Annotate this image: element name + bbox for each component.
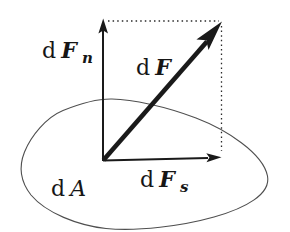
projection-lines (108, 21, 222, 151)
label-shear-force-subscript: s (180, 178, 189, 196)
force-diagram-svg: d F n d F d F s d A (0, 0, 290, 232)
label-shear-force-prefix: d (140, 167, 154, 192)
label-normal-force-symbol: F (60, 37, 78, 63)
label-normal-force: d F n (42, 37, 93, 67)
label-resultant-force: d F (136, 54, 172, 80)
label-surface-area-symbol: A (68, 176, 86, 201)
label-resultant-force-prefix: d (136, 55, 150, 80)
normal-force-arrow (98, 19, 108, 162)
surface-patch-outline (21, 99, 268, 229)
label-resultant-force-symbol: F (154, 54, 172, 80)
label-shear-force: d F s (140, 166, 189, 196)
label-surface-area: d A (51, 176, 86, 201)
label-normal-force-subscript: n (82, 49, 93, 67)
shear-force-arrow (103, 153, 222, 162)
label-shear-force-symbol: F (158, 166, 176, 192)
resultant-force-arrow (104, 22, 223, 161)
shear-force-arrowhead (206, 153, 221, 162)
force-decomposition-figure: d F n d F d F s d A (0, 0, 290, 232)
label-surface-area-prefix: d (51, 176, 65, 201)
resultant-force-arrowhead (196, 22, 222, 50)
label-normal-force-prefix: d (42, 38, 56, 63)
